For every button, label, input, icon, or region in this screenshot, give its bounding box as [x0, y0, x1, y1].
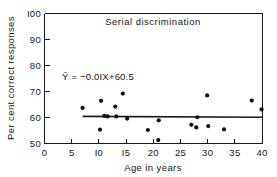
data-point	[206, 124, 210, 128]
data-point	[99, 99, 103, 103]
x-ticklabel-30: 30	[202, 147, 213, 158]
data-point	[121, 91, 125, 95]
chart-title: Serial discrimination	[105, 16, 201, 27]
y-axis-title: Per cent correct responses	[5, 16, 16, 140]
regression-equation-annotation: Ỹ = −0.0IX+60.5	[62, 71, 134, 82]
data-point	[157, 118, 161, 122]
data-point	[98, 128, 102, 132]
x-ticklabel-10: I0	[95, 147, 104, 158]
y-ticks-group	[45, 14, 50, 144]
data-point	[259, 107, 263, 111]
data-point	[222, 127, 226, 131]
data-point	[113, 104, 117, 108]
y-ticklabel-70: 70	[30, 86, 41, 97]
y-ticklabel-100: I00	[27, 8, 41, 19]
x-ticklabel-35: 35	[229, 147, 240, 158]
data-point	[125, 116, 129, 120]
x-ticklabel-15: I5	[122, 147, 131, 158]
x-ticklabel-40: 40	[257, 147, 268, 158]
y-ticklabel-60: 60	[30, 112, 41, 123]
data-point	[250, 99, 254, 103]
y-ticklabel-90: 90	[30, 34, 41, 45]
y-ticklabels-group: I00 90 80 70 60 50	[27, 8, 41, 149]
data-point	[80, 106, 84, 110]
data-point	[195, 115, 199, 119]
y-ticklabel-80: 80	[30, 60, 41, 71]
y-ticklabel-50: 50	[30, 138, 41, 149]
data-point	[194, 125, 198, 129]
x-ticks-group	[45, 139, 263, 144]
x-ticklabel-25: 25	[175, 147, 186, 158]
data-point	[106, 114, 110, 118]
data-point	[156, 138, 160, 142]
x-ticklabels-group: 0 5 I0 I5 20 25 30 35 40	[42, 147, 268, 158]
data-point	[189, 123, 193, 127]
x-ticklabel-5: 5	[69, 147, 75, 158]
data-point	[114, 114, 118, 118]
chart-figure: I00 90 80 70 60 50 0 5 I0 I5 20 25	[0, 0, 277, 177]
scatter-plot-svg: I00 90 80 70 60 50 0 5 I0 I5 20 25	[0, 0, 277, 177]
data-point	[205, 93, 209, 97]
x-axis-title: Age in years	[124, 162, 182, 173]
data-point	[146, 128, 150, 132]
x-ticklabel-0: 0	[42, 147, 48, 158]
x-ticklabel-20: 20	[148, 147, 159, 158]
